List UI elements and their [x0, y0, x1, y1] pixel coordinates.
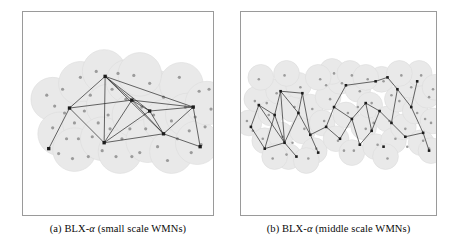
mesh-client-dot	[265, 102, 268, 105]
coverage-circle	[373, 144, 399, 170]
mesh-router-node	[390, 122, 393, 125]
caption-a-alpha-symbol: α	[89, 223, 95, 234]
mesh-client-dot	[366, 78, 369, 81]
mesh-client-dot	[394, 137, 397, 140]
mesh-router-node	[364, 102, 367, 105]
mesh-client-dot	[422, 139, 425, 142]
panel-b-middle-scale-wmns	[240, 11, 437, 216]
mesh-router-node	[370, 130, 373, 133]
mesh-router-node	[103, 75, 106, 78]
mesh-router-node	[301, 92, 304, 95]
mesh-client-dot	[271, 157, 274, 160]
mesh-router-node	[192, 105, 195, 108]
caption-b-alpha-symbol: α	[307, 223, 313, 234]
mesh-client-dot	[406, 145, 409, 148]
mesh-router-node	[162, 132, 165, 135]
caption-a-prefix: (a)	[50, 223, 62, 234]
mesh-router-node	[422, 132, 425, 135]
mesh-client-dot	[91, 135, 94, 138]
coverage-circle	[353, 64, 379, 90]
mesh-client-dot	[319, 78, 322, 81]
mesh-client-dot	[410, 86, 413, 89]
mesh-client-dot	[109, 127, 112, 130]
mesh-router-node	[428, 149, 431, 152]
mesh-client-dot	[351, 74, 354, 77]
mesh-client-dot	[190, 151, 193, 154]
mesh-client-dot	[357, 106, 360, 109]
mesh-client-dot	[343, 149, 346, 152]
mesh-client-dot	[87, 155, 90, 158]
mesh-client-dot	[170, 119, 173, 122]
mesh-client-dot	[246, 120, 249, 123]
mesh-client-dot	[390, 94, 393, 97]
mesh-router-node	[68, 106, 71, 109]
mesh-client-dot	[148, 82, 151, 85]
mesh-client-dot	[341, 82, 344, 85]
mesh-router-node	[102, 141, 105, 144]
mesh-client-dot	[400, 74, 403, 77]
figure-root: (a) BLX-α (small scale WMNs) (b) BLX-α (…	[0, 0, 457, 248]
mesh-client-dot	[275, 92, 278, 95]
mesh-router-node	[386, 76, 389, 79]
mesh-client-dot	[128, 127, 131, 130]
mesh-router-node	[404, 135, 407, 138]
mesh-client-dot	[386, 157, 389, 160]
mesh-client-dot	[283, 74, 286, 77]
mesh-client-dot	[45, 94, 48, 97]
mesh-client-dot	[258, 78, 261, 81]
mesh-client-dot	[107, 113, 110, 116]
mesh-router-node	[295, 155, 298, 158]
mesh-client-dot	[207, 88, 210, 91]
mesh-router-node	[396, 88, 399, 91]
mesh-client-dot	[144, 127, 147, 130]
panel-a-plot	[23, 12, 213, 215]
coverage-circle	[248, 64, 274, 90]
mesh-client-dot	[130, 155, 133, 158]
mesh-router-node	[279, 90, 282, 93]
mesh-client-dot	[261, 137, 264, 140]
caption-panel-b: (b) BLX-α (middle scale WMNs)	[240, 223, 437, 234]
mesh-client-dot	[71, 157, 74, 160]
mesh-router-node	[47, 147, 50, 150]
mesh-router-node	[382, 145, 385, 148]
mesh-client-dot	[156, 145, 159, 148]
mesh-client-dot	[138, 151, 141, 154]
mesh-client-dot	[97, 121, 100, 124]
mesh-router-node	[339, 137, 342, 140]
mesh-router-node	[283, 141, 286, 144]
mesh-client-dot	[364, 128, 367, 131]
mesh-router-node	[130, 98, 133, 101]
mesh-client-dot	[285, 153, 288, 156]
mesh-router-node	[148, 109, 151, 112]
panel-a-small-scale-wmns	[22, 11, 214, 216]
mesh-router-node	[297, 112, 300, 115]
mesh-router-node	[378, 110, 381, 113]
mesh-router-node	[250, 126, 253, 129]
mesh-client-dot	[307, 157, 310, 160]
mesh-client-dot	[299, 86, 302, 89]
caption-b-suffix: (middle scale WMNs)	[315, 223, 410, 234]
mesh-client-dot	[51, 126, 54, 129]
mesh-client-dot	[329, 98, 332, 101]
mesh-client-dot	[267, 114, 270, 117]
mesh-client-dot	[311, 108, 314, 111]
caption-a-suffix: (small scale WMNs)	[98, 223, 187, 234]
panel-b-plot	[241, 12, 436, 215]
mesh-client-dot	[358, 90, 361, 93]
caption-b-algorithm: BLX-	[282, 223, 307, 234]
mesh-router-node	[258, 104, 261, 107]
mesh-client-dot	[420, 74, 423, 77]
coverage-circle	[293, 148, 319, 174]
mesh-client-dot	[325, 84, 328, 87]
caption-b-prefix: (b)	[267, 223, 280, 234]
mesh-client-dot	[166, 159, 169, 162]
mesh-client-dot	[404, 128, 407, 131]
mesh-client-dot	[79, 76, 82, 79]
mesh-client-dot	[110, 88, 113, 91]
mesh-router-node	[317, 151, 320, 154]
mesh-client-dot	[430, 122, 433, 125]
caption-panel-a: (a) BLX-α (small scale WMNs)	[22, 223, 214, 234]
mesh-client-dot	[291, 141, 294, 144]
mesh-client-dot	[77, 137, 80, 140]
mesh-router-node	[273, 114, 276, 117]
